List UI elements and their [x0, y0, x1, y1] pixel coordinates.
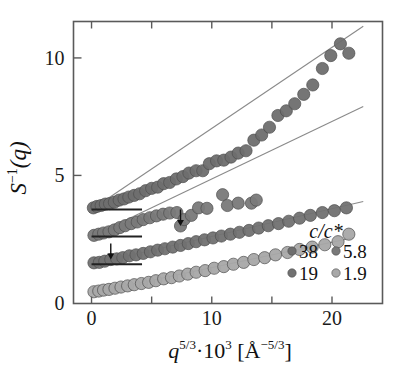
legend-label-19: 19	[299, 263, 318, 284]
fit-line-38	[92, 26, 364, 209]
data-point-19	[293, 212, 305, 224]
scatter-plot: 010205100S−1(q)q5/3·103 [Å−5/3]c/c*385.8…	[0, 0, 418, 381]
data-point-1.9	[259, 252, 271, 264]
y-axis-label: S−1(q)	[5, 141, 31, 194]
plot-area	[87, 26, 363, 298]
data-point-38	[240, 145, 252, 157]
data-point-1.9	[343, 228, 355, 240]
legend-label-5.8: 5.8	[343, 241, 367, 262]
data-point-5.8	[221, 199, 233, 211]
data-point-19	[316, 206, 328, 218]
legend-marker-5.8	[332, 247, 340, 255]
data-point-38	[289, 98, 301, 110]
legend-label-38: 38	[299, 241, 318, 262]
x-tick-label-0: 0	[87, 307, 97, 329]
svg-text:S−1(q): S−1(q)	[5, 141, 31, 194]
y-tick-label-5: 5	[55, 164, 65, 186]
data-point-19	[283, 215, 295, 227]
data-point-19	[340, 202, 352, 214]
data-point-5.8	[201, 202, 213, 214]
legend-marker-38	[288, 247, 296, 255]
data-point-5.8	[250, 194, 262, 206]
data-point-1.9	[269, 249, 281, 261]
data-point-38	[298, 88, 310, 100]
x-tick-label-10: 10	[202, 307, 222, 329]
x-tick-label-20: 20	[322, 307, 342, 329]
data-point-5.8	[232, 197, 244, 209]
legend-title: c/c*	[309, 220, 342, 242]
data-point-38	[334, 38, 346, 50]
data-point-1.9	[248, 253, 260, 265]
data-point-38	[316, 62, 328, 74]
data-point-38	[325, 49, 337, 61]
figure-panel: 010205100S−1(q)q5/3·103 [Å−5/3]c/c*385.8…	[0, 0, 418, 381]
data-point-5.8	[216, 189, 228, 201]
x-axis-label: q5/3·103 [Å−5/3]	[168, 337, 291, 363]
data-point-38	[263, 121, 275, 133]
legend-label-1.9: 1.9	[343, 263, 367, 284]
y-tick-label-0: 0	[55, 292, 65, 314]
data-point-38	[307, 79, 319, 91]
legend-marker-1.9	[332, 269, 340, 277]
y-tick-label-10: 10	[45, 47, 65, 69]
data-point-38	[343, 47, 355, 59]
legend-marker-19	[288, 269, 296, 277]
data-point-19	[328, 205, 340, 217]
